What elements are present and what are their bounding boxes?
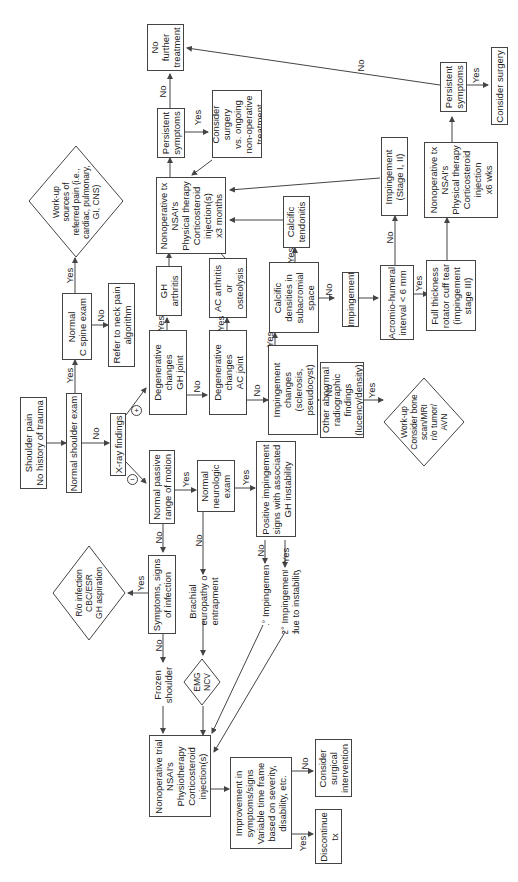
node-text: Work-up sources of referred pain (i.e., … — [51, 165, 101, 239]
edge-label-yes: Yes — [135, 576, 146, 592]
edge-label-yes: Yes — [413, 276, 424, 292]
edge-label-yes: Yes — [215, 316, 226, 332]
flowchart-canvas: Shoulder pain No history of trauma Norma… — [0, 0, 518, 882]
node-primary-impingement: 1° Impingement — [257, 565, 273, 625]
edge-label-no: No — [153, 639, 164, 651]
node-persistent-symptoms-top: Persistent symptoms — [157, 108, 185, 158]
node-text: EMG NCV — [192, 672, 212, 691]
node-normal-prom: Normal passive range of motion — [149, 450, 175, 524]
node-shoulder-pain: Shoulder pain No history of trauma — [20, 397, 47, 489]
node-neck-pain-algorithm: Refer to neck pain algorithm — [108, 283, 135, 367]
node-nonoperative-trial: Nonoperative trial NSAI's Physiotherapy … — [149, 735, 211, 817]
node-text: Impingement (Stage I, II) — [384, 149, 406, 204]
edge-label-no: No — [355, 59, 366, 71]
node-text: Frozen shoulder — [153, 667, 175, 703]
node-full-thickness-tear: Full thickness rotator cuff tear (imping… — [426, 260, 476, 331]
edge-label-yes: Yes — [285, 248, 296, 264]
node-normal-neurologic: Normal neurologic exam — [197, 460, 235, 512]
node-frozen-shoulder: Frozen shoulder — [150, 664, 177, 706]
edge-label-yes: Yes — [180, 472, 191, 488]
node-text: Calcific tendonitis — [286, 202, 308, 243]
node-text: Nonoperative tx NSAI's Physical therapy … — [428, 145, 494, 215]
node-impingement: Impingement — [342, 272, 359, 327]
node-impingement-stage: Impingement (Stage I, II) — [381, 137, 408, 216]
edge-label-yes: Yes — [240, 470, 251, 486]
node-text: X-ray findings — [113, 415, 124, 473]
node-normal-shoulder-exam: Normal shoulder exam — [66, 393, 82, 493]
node-emg-ncv: EMG NCV — [183, 658, 221, 706]
node-text: Impingement changes (sclerosis, pseudocy… — [271, 363, 315, 418]
node-text: Discontinue tx — [318, 812, 340, 862]
node-other-abnormal: Other abnormal radiographic findings (lu… — [320, 362, 364, 438]
node-text: Other abnormal radiographic findings (lu… — [320, 364, 364, 435]
edge-label-no: No — [95, 309, 106, 321]
edge-label-yes: Yes — [192, 110, 203, 126]
edge-label-no: No — [193, 534, 204, 546]
node-text: R/o infection CBC/ESR GH aspiration — [74, 567, 104, 619]
edge-label-yes: Yes — [64, 268, 75, 284]
node-calcific-densities: Calcific densities in subacromial space — [269, 262, 319, 333]
figure-caption-cropped — [506, 700, 510, 780]
node-text: 2° Impingement due to instability — [279, 570, 301, 634]
node-text: Degenerative changes AC joint — [212, 344, 245, 401]
edge-label-no: No — [323, 384, 334, 396]
edge-label-no: No — [90, 427, 101, 439]
edge-label-no: No — [191, 380, 202, 392]
node-gh-arthritis: GH arthritis — [156, 266, 182, 316]
node-text: Consider surgery — [494, 50, 505, 122]
node-no-further-treatment: No further treatment — [147, 24, 184, 71]
node-xray-findings: X-ray findings — [110, 413, 126, 476]
node-normal-c-spine: Normal C spine exam — [62, 293, 92, 360]
edge-label-no: No — [153, 531, 164, 543]
node-text: 1° Impingement — [260, 565, 271, 625]
node-text: Consider surgical intervention — [317, 743, 350, 792]
node-nonoperative-6wks: Nonoperative tx NSAI's Physical therapy … — [424, 142, 498, 218]
node-text: Normal C spine exam — [66, 297, 88, 355]
node-workup-bone-scan: Work-up Consider bone scan/MRI r/o tumor… — [383, 377, 465, 467]
node-text: Calcific densities in subacromial space — [272, 272, 316, 323]
node-text: Nonoperative trial NSAI's Physiotherapy … — [153, 739, 208, 813]
node-discontinue-tx: Discontinue tx — [315, 809, 342, 864]
node-text: Work-up Consider bone scan/MRI r/o tumor… — [399, 394, 449, 449]
node-ro-infection: R/o infection CBC/ESR GH aspiration — [52, 545, 126, 641]
node-acromio-humeral: Acromio-humeral interval < 6 mm — [380, 265, 414, 340]
edge-label-no: No — [384, 231, 395, 243]
node-text: Persistent symptoms — [443, 65, 465, 108]
node-text: AC arthritis or osteolysis — [212, 265, 245, 312]
minus-icon: − — [127, 474, 138, 485]
edge-label-yes: Yes — [64, 368, 75, 384]
node-text: Normal shoulder exam — [69, 395, 80, 491]
node-consider-surgery: Consider surgery — [491, 47, 508, 125]
node-nonoperative-3months: Nonoperative tx NSAI's Physical therapy … — [156, 177, 226, 254]
edge-label-no: No — [299, 757, 310, 769]
edge-label-yes: Yes — [366, 383, 377, 399]
node-symptoms-infection: Symptoms, signs of infection — [148, 555, 176, 634]
node-text: No further treatment — [149, 27, 182, 67]
edge-label-no: No — [323, 283, 334, 295]
edge-label-no: No — [255, 544, 266, 556]
node-calcific-tendonitis: Calcific tendonitis — [283, 196, 310, 248]
edge-label-yes: Yes — [155, 316, 166, 332]
node-text: Acromio-humeral interval < 6 mm — [386, 266, 408, 338]
edge-label-yes: Yes — [470, 68, 481, 84]
node-persistent-symptoms-right: Persistent symptoms — [440, 62, 467, 112]
node-text: Degenerative changes GH joint — [152, 344, 185, 401]
node-text: Refer to neck pain algorithm — [111, 286, 133, 363]
node-secondary-impingement: 2° Impingement due to instability — [275, 570, 305, 634]
node-text: Improvement in symptoms/signs Variable t… — [234, 762, 289, 844]
node-text: Impingement — [345, 272, 356, 327]
edge-label-yes: Yes — [297, 836, 308, 852]
edge-label-no: No — [157, 85, 168, 97]
node-workup-referred-pain: Work-up sources of referred pain (i.e., … — [28, 145, 124, 258]
node-degenerative-gh: Degenerative changes GH joint — [149, 330, 187, 415]
node-text: Consider surgery vs. ongoing non-operati… — [212, 95, 262, 153]
node-text: Normal neurologic exam — [200, 464, 233, 508]
node-text: Full thickness rotator cuff tear (imping… — [429, 263, 473, 327]
node-text: Normal passive range of motion — [151, 454, 173, 520]
edge-label-no: No — [251, 384, 262, 396]
node-ac-arthritis: AC arthritis or osteolysis — [209, 258, 247, 318]
node-text: GH arthritis — [158, 275, 180, 306]
plus-icon: + — [131, 405, 142, 416]
edge-label-yes: Yes — [280, 548, 291, 564]
node-text: Nonoperative tx NSAI's Physical therapy … — [158, 181, 224, 251]
